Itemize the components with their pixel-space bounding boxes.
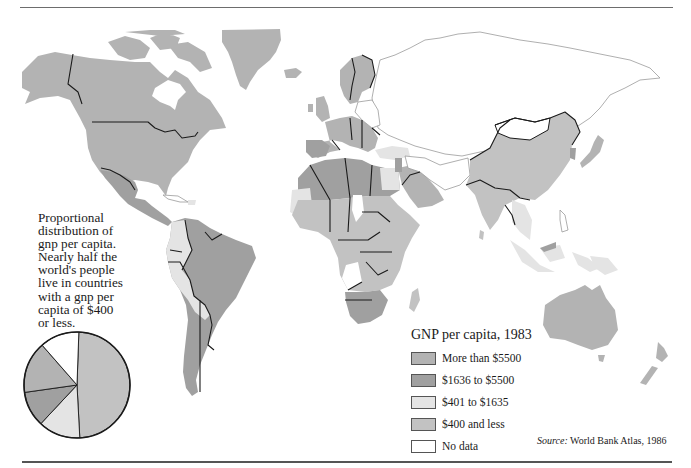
caribbean-islands [163, 195, 188, 202]
legend: GNP per capita, 1983 More than $5500 $16… [411, 327, 532, 457]
source-text: World Bank Atlas, 1986 [568, 435, 667, 446]
indonesia [510, 240, 618, 275]
caption-line: with a gnp per [38, 290, 138, 303]
legend-swatch [411, 374, 436, 387]
levant [395, 158, 402, 172]
philippines [560, 210, 568, 232]
bottom-rule [22, 461, 672, 463]
pie-slice [77, 332, 130, 438]
tasmania [598, 355, 605, 362]
legend-label: More than $5500 [442, 352, 521, 364]
pie-caption: Proportional distribution of gnp per cap… [38, 211, 138, 329]
southern-africa [345, 290, 388, 324]
korea [570, 148, 576, 160]
greenland [222, 29, 281, 90]
legend-swatch [411, 396, 436, 409]
hispaniola [188, 200, 196, 205]
gnp-pie-chart [22, 330, 134, 442]
legend-item: More than $5500 [411, 347, 532, 369]
legend-swatch [411, 440, 436, 453]
source-prefix: Source: [537, 435, 568, 446]
australia [543, 285, 618, 350]
legend-label: $401 to $1635 [442, 396, 508, 408]
new-zealand [640, 342, 668, 385]
british-isles [308, 96, 330, 122]
scandinavia [340, 55, 375, 104]
legend-label: No data [442, 440, 478, 452]
iceland [284, 68, 302, 78]
legend-label: $400 and less [442, 418, 505, 430]
legend-label: $1636 to $5500 [442, 374, 514, 386]
legend-title: GNP per capita, 1983 [411, 327, 532, 343]
legend-item: $1636 to $5500 [411, 369, 532, 391]
caption-line: live in countries [38, 276, 138, 289]
madagascar [409, 288, 420, 312]
legend-swatch [411, 418, 436, 431]
source-citation: Source: World Bank Atlas, 1986 [537, 435, 666, 446]
turkey [375, 146, 410, 160]
legend-item: No data [411, 435, 532, 457]
legend-item: $400 and less [411, 413, 532, 435]
legend-swatch [411, 352, 436, 365]
caption-line: or less. [38, 316, 138, 329]
caption-line: capita of $400 [38, 303, 138, 316]
legend-item: $401 to $1635 [411, 391, 532, 413]
southeast-asia [512, 200, 532, 240]
north-america [22, 52, 226, 196]
sri-lanka [479, 230, 484, 240]
japan [580, 135, 604, 168]
